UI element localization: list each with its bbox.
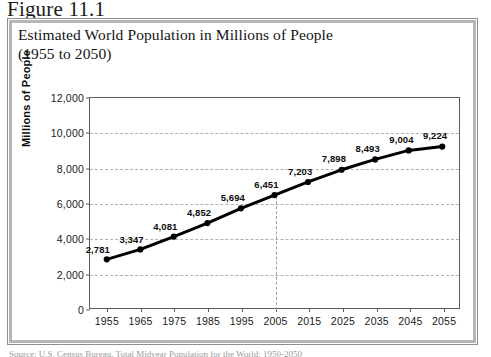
x-tick-mark-1965 — [141, 308, 142, 312]
y-tick-mark-4000 — [86, 239, 90, 240]
y-tick-label-10000: 10,000 — [51, 127, 84, 139]
gridline-4000 — [90, 239, 459, 240]
data-point-2005 — [271, 192, 277, 198]
y-axis-title: Millions of People — [20, 50, 32, 147]
x-tick-label-2045: 2045 — [398, 315, 422, 327]
x-tick-label-2005: 2005 — [263, 315, 287, 327]
x-tick-label-2015: 2015 — [297, 315, 321, 327]
y-tick-label-4000: 4,000 — [57, 233, 84, 245]
x-tick-label-1975: 1975 — [162, 315, 186, 327]
data-label-2055: 9,224 — [423, 130, 447, 141]
x-tick-label-2035: 2035 — [365, 315, 389, 327]
y-tick-label-0: 0 — [78, 304, 84, 316]
data-point-1985 — [204, 220, 210, 226]
x-tick-mark-2045 — [410, 308, 411, 312]
data-label-2005: 6,451 — [254, 179, 278, 190]
data-label-1965: 3,347 — [119, 234, 143, 245]
gridline-2000 — [90, 275, 459, 276]
data-point-2025 — [339, 167, 345, 173]
x-tick-label-1985: 1985 — [196, 315, 220, 327]
y-tick-label-2000: 2,000 — [57, 269, 84, 281]
x-tick-mark-1975 — [174, 308, 175, 312]
plot-area: 02,0004,0006,0008,00010,00012,000 195519… — [89, 97, 460, 309]
data-point-2055 — [439, 144, 445, 150]
data-label-2015: 7,203 — [288, 166, 312, 177]
gridline-6000 — [90, 204, 459, 205]
y-tick-label-12000: 12,000 — [51, 92, 84, 104]
figure-frame-inner: Estimated World Population in Millions o… — [8, 19, 477, 344]
data-label-2035: 8,493 — [356, 143, 380, 154]
y-tick-label-6000: 6,000 — [57, 198, 84, 210]
x-tick-label-1995: 1995 — [230, 315, 254, 327]
gridline-8000 — [90, 169, 459, 170]
data-label-1975: 4,081 — [153, 221, 177, 232]
chart-title-line2: (1955 to 2050) — [18, 44, 458, 63]
data-point-1965 — [137, 246, 143, 252]
x-tick-mark-2025 — [343, 308, 344, 312]
x-tick-label-1965: 1965 — [128, 315, 152, 327]
y-tick-mark-8000 — [86, 168, 90, 169]
y-tick-label-8000: 8,000 — [57, 163, 84, 175]
data-label-2045: 9,004 — [389, 134, 413, 145]
y-tick-mark-6000 — [86, 204, 90, 205]
data-label-1985: 4,852 — [187, 207, 211, 218]
data-label-2025: 7,898 — [322, 153, 346, 164]
figure-page: Figure 11.1 Estimated World Population i… — [0, 0, 491, 357]
y-tick-mark-0 — [86, 310, 90, 311]
data-point-2015 — [305, 179, 311, 185]
x-tick-mark-2035 — [377, 308, 378, 312]
x-tick-label-2055: 2055 — [432, 315, 456, 327]
x-tick-mark-1995 — [242, 308, 243, 312]
data-point-1995 — [238, 205, 244, 211]
x-tick-mark-1985 — [208, 308, 209, 312]
data-point-1955 — [104, 256, 110, 262]
y-tick-mark-12000 — [86, 98, 90, 99]
x-tick-mark-1955 — [107, 308, 108, 312]
figure-frame: Estimated World Population in Millions o… — [7, 18, 478, 345]
x-tick-label-1955: 1955 — [95, 315, 119, 327]
data-label-1995: 5,694 — [221, 192, 245, 203]
x-tick-mark-2055 — [444, 308, 445, 312]
series-polyline — [107, 147, 442, 260]
reference-line-2005 — [276, 196, 277, 310]
data-label-1955: 2,781 — [86, 244, 110, 255]
figure-caption: Figure 11.1 — [7, 0, 105, 20]
data-point-2045 — [406, 147, 412, 153]
y-tick-mark-2000 — [86, 274, 90, 275]
x-tick-mark-2015 — [309, 308, 310, 312]
chart-title: Estimated World Population in Millions o… — [18, 25, 458, 63]
source-note: Source: U.S. Census Bureau, Total Midyea… — [9, 349, 479, 357]
chart-title-line1: Estimated World Population in Millions o… — [18, 26, 333, 43]
series-line-world-population — [90, 98, 459, 308]
data-point-2035 — [372, 156, 378, 162]
y-tick-mark-10000 — [86, 133, 90, 134]
x-tick-label-2025: 2025 — [331, 315, 355, 327]
